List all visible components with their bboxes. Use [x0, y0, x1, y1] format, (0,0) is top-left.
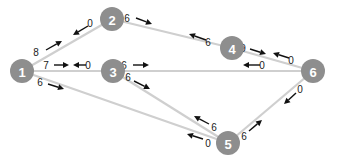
flow-value: 8 — [33, 47, 39, 58]
arrow-shaft — [288, 93, 296, 100]
arrow-head-icon — [187, 133, 194, 139]
arrow-head-icon — [273, 52, 280, 58]
flow-value: 0 — [205, 138, 211, 149]
arrow-shaft — [136, 18, 146, 22]
flow-value: 6 — [124, 13, 130, 24]
flow-value: 6 — [37, 77, 43, 88]
edge-1-2 — [22, 19, 112, 71]
flow-value: 0 — [259, 60, 265, 71]
node-3: 3 — [101, 59, 125, 83]
arrow-shaft — [46, 44, 57, 50]
arrow-head-icon — [259, 49, 266, 55]
edge-2-4 — [112, 19, 232, 48]
arrow-shaft — [193, 136, 203, 139]
flow-value: 0 — [87, 18, 93, 29]
flow-label-1-3: 0 — [73, 60, 91, 71]
node-2: 2 — [100, 7, 124, 31]
nodes: 123456 — [10, 7, 325, 155]
flow-value: 6 — [211, 122, 217, 133]
node-label: 6 — [309, 65, 316, 80]
arrow-shaft — [250, 49, 260, 52]
arrow-shaft — [78, 26, 88, 32]
flow-network-diagram: 8066706090606660 123456 — [0, 0, 339, 168]
flow-value: 0 — [85, 60, 91, 71]
node-4: 4 — [220, 36, 244, 60]
flow-label-3-6: 0 — [243, 60, 265, 71]
edges — [22, 19, 313, 143]
flow-label-3-6: 6 — [121, 60, 149, 71]
flow-label-1-3: 7 — [43, 60, 69, 71]
node-label: 5 — [224, 137, 231, 152]
flow-value: 6 — [241, 131, 247, 142]
node-5: 5 — [216, 131, 240, 155]
arrow-shaft — [48, 84, 58, 87]
flow-label-2-4: 6 — [124, 13, 152, 25]
node-label: 4 — [228, 42, 236, 57]
flow-value: 0 — [288, 55, 294, 66]
arrow-head-icon — [243, 62, 249, 68]
arrow-shaft — [199, 119, 209, 124]
node-label: 1 — [18, 65, 25, 80]
flow-value: 6 — [205, 37, 211, 48]
flow-value: 6 — [125, 72, 131, 83]
node-1: 1 — [10, 59, 34, 83]
flow-value: 0 — [297, 84, 303, 95]
arrow-head-icon — [63, 62, 69, 68]
node-label: 2 — [108, 13, 115, 28]
arrow-head-icon — [143, 62, 149, 68]
arrow-head-icon — [73, 62, 79, 68]
flow-value: 7 — [43, 60, 49, 71]
node-6: 6 — [301, 59, 325, 83]
node-label: 3 — [109, 65, 116, 80]
